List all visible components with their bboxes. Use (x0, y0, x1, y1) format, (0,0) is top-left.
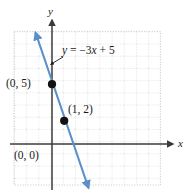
data-point-0-5 (48, 80, 56, 88)
point-label-0-5: (0, 5) (6, 78, 31, 90)
data-point-1-2 (60, 117, 68, 125)
equation-label: y = −3x + 5 (62, 45, 115, 57)
coordinate-plane-svg (0, 0, 192, 196)
equation-plus-sign: + (97, 44, 109, 56)
y-axis-label: y (48, 6, 53, 17)
equation-constant: 5 (109, 44, 115, 56)
equation-equals-sign: = (67, 44, 79, 56)
equation-coefficient: −3 (79, 44, 91, 56)
graph-figure: x y y = −3x + 5 (0, 5) (1, 2) (0, 0) (0, 0, 192, 196)
origin-label: (0, 0) (14, 150, 39, 162)
point-label-1-2: (1, 2) (68, 104, 93, 116)
x-axis-label: x (178, 138, 183, 149)
